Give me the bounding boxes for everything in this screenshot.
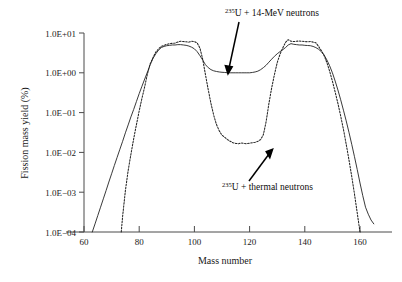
y-tick-label-0: 1.0E+01 [45,29,76,39]
x-tick-label-4: 140 [298,237,312,247]
annotation-thermal-group: 235U + thermal neutrons [222,149,313,192]
y-tick-label-2: 1.0E−01 [45,108,76,118]
series-thermal-neutrons-curve [92,44,374,232]
y-tick-label-5: 1.0E−04 [45,228,76,238]
annotation-14mev-group: 235U + 14-MeV neutrons [225,7,319,75]
y-axis-ticks [79,33,84,232]
x-tick-label-5: 160 [353,237,367,247]
annotation-14mev-arrow-line [229,22,240,71]
series-14mev-neutrons-curve [121,40,361,232]
x-tick-label-1: 80 [135,237,145,247]
y-axis-title: Fission mass yield (%) [19,87,31,178]
x-tick-label-2: 100 [188,237,202,247]
x-tick-label-0: 60 [80,237,90,247]
chart-canvas: 1.0E+01 1.0E+00 1.0E−01 1.0E−02 1.0E−03 … [0,0,402,282]
annotation-14mev-label: 235U + 14-MeV neutrons [225,7,319,19]
x-axis-ticks [84,226,360,232]
x-axis-title: Mass number [198,255,253,266]
annotation-thermal-label: 235U + thermal neutrons [222,181,313,193]
fission-mass-yield-figure: 1.0E+01 1.0E+00 1.0E−01 1.0E−02 1.0E−03 … [0,0,402,282]
x-tick-label-3: 120 [243,237,257,247]
y-tick-label-3: 1.0E−02 [45,148,76,158]
y-tick-label-4: 1.0E−03 [45,188,76,198]
annotation-thermal-arrow-line [249,152,271,181]
y-tick-label-1: 1.0E+00 [45,68,76,78]
